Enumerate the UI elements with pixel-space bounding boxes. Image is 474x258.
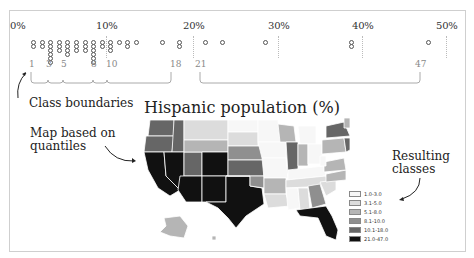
annotation-resulting-classes: Resulting classes	[392, 150, 450, 176]
legend-label: 5.1-8.0	[364, 209, 382, 215]
legend-label: 10.1-18.0	[364, 227, 388, 233]
legend-item: 21.0-47.0	[349, 236, 388, 242]
annotation-line: quantiles	[30, 140, 115, 153]
legend-item: 10.1-18.0	[349, 227, 388, 233]
legend-swatch	[349, 200, 361, 206]
legend-label: 1.0-3.0	[364, 191, 382, 197]
legend-swatch	[349, 227, 361, 233]
legend-swatch	[349, 209, 361, 215]
map-title: Hispanic population (%)	[144, 98, 340, 117]
legend-swatch	[349, 191, 361, 197]
legend-item: 8.1-10.0	[349, 218, 385, 224]
annotation-line: classes	[392, 163, 450, 176]
legend-swatch	[349, 236, 361, 242]
legend-item: 5.1-8.0	[349, 209, 382, 215]
legend-item: 1.0-3.0	[349, 191, 382, 197]
legend-label: 3.1-5.0	[364, 200, 382, 206]
annotation-class-boundaries: Class boundaries	[29, 97, 133, 110]
us-choropleth-map	[140, 118, 350, 248]
legend-item: 3.1-5.0	[349, 200, 382, 206]
legend-swatch	[349, 218, 361, 224]
legend-label: 8.1-10.0	[364, 218, 385, 224]
annotation-map-based: Map based on quantiles	[30, 127, 115, 153]
legend-label: 21.0-47.0	[364, 236, 388, 242]
